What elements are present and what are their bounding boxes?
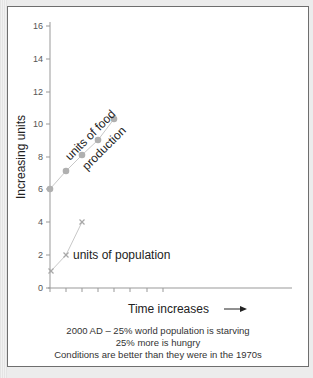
population-line xyxy=(51,222,82,271)
caption-line-2: 25% more is hungry xyxy=(7,337,309,349)
y-tick-labels: 0 2 4 6 8 10 12 14 16 xyxy=(33,21,43,293)
population-label: units of population xyxy=(73,248,170,262)
y-ticks xyxy=(46,26,50,288)
svg-text:12: 12 xyxy=(33,87,43,97)
svg-text:10: 10 xyxy=(33,119,43,129)
svg-text:16: 16 xyxy=(33,21,43,31)
svg-text:2: 2 xyxy=(38,250,43,260)
caption-line-3: Conditions are better than they were in … xyxy=(7,349,309,361)
x-ticks xyxy=(66,288,163,292)
y-axis-label: Increasing units xyxy=(14,115,28,199)
svg-text:6: 6 xyxy=(38,184,43,194)
svg-text:0: 0 xyxy=(38,283,43,293)
svg-text:14: 14 xyxy=(33,54,43,64)
caption-line-1: 2000 AD – 25% world population is starvi… xyxy=(7,325,309,337)
svg-text:4: 4 xyxy=(38,217,43,227)
x-axis-label: Time increases xyxy=(128,302,209,316)
arrow-right-icon xyxy=(224,306,247,312)
svg-text:8: 8 xyxy=(38,152,43,162)
chart: 0 2 4 6 8 10 12 14 16 Increasing units u… xyxy=(0,0,313,378)
